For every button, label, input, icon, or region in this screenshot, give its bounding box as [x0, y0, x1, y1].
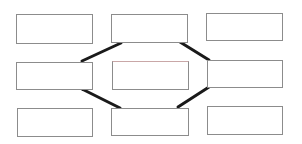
box-top-left[interactable] [16, 14, 93, 44]
box-label [207, 14, 282, 40]
box-middle-left[interactable] [16, 62, 93, 90]
box-label [17, 15, 92, 43]
box-middle-center[interactable] [112, 61, 189, 90]
box-label [17, 63, 92, 89]
box-bottom-left[interactable] [17, 108, 93, 137]
diagram-canvas [0, 0, 302, 144]
box-label [208, 107, 282, 134]
box-top-center[interactable] [111, 14, 188, 43]
box-label [113, 62, 188, 89]
edge-top-center-to-middle-left [82, 43, 121, 61]
box-label [208, 61, 282, 87]
edge-middle-left-to-bottom-center [82, 89, 120, 108]
box-bottom-right[interactable] [207, 106, 283, 135]
box-bottom-center[interactable] [111, 108, 189, 136]
box-label [112, 109, 188, 135]
box-top-right[interactable] [206, 13, 283, 41]
box-middle-right[interactable] [207, 60, 283, 88]
edge-top-center-to-middle-right [180, 42, 209, 60]
box-label [18, 109, 92, 136]
edge-middle-right-to-bottom-center [178, 87, 209, 107]
box-label [112, 15, 187, 42]
